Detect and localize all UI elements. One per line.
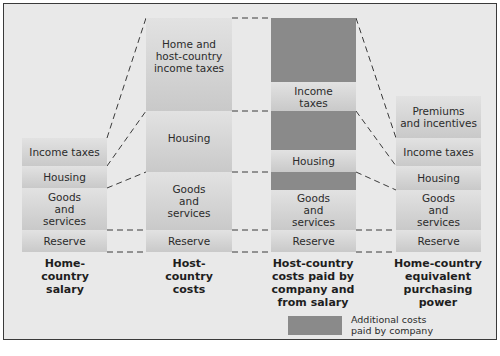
legend-text: Additional costs paid by company [351,314,461,336]
segment-income-taxes: Income taxes [22,138,107,166]
segment-housing: Housing [146,111,232,172]
segment-reserve: Reserve [271,230,356,252]
column-label-line: from salary [258,296,368,309]
column-label-line: purchasing [383,283,493,296]
segment-label: Reserve [292,235,334,247]
segment-reserve: Reserve [396,230,481,252]
segment-label: Goods [297,192,330,204]
segment-label: services [167,207,210,219]
column-label-line: equivalent [383,270,493,283]
segment-reserve: Reserve [22,230,107,252]
segment-company-paid [271,18,356,82]
column-label-line: Home-country [383,257,493,270]
column-label: Host-country costs paid by company and f… [258,257,368,309]
column-label-line: costs paid by [258,270,368,283]
segment-label: Income taxes [403,146,473,158]
segment-label: Premiums [412,105,464,117]
segment-income-taxes: Income taxes [396,138,481,166]
column-label-line: Host-country [258,257,368,270]
column-label-line: Host- [134,257,244,270]
segment-label: Goods [172,183,205,195]
segment-label: and [55,203,75,215]
segment-label: services [292,216,335,228]
segment-label: host-country [156,50,223,62]
segment-income-taxes: Income taxes [271,82,356,111]
column-label: Home-country equivalent purchasing power [383,257,493,309]
segment-label: Reserve [43,235,85,247]
segment-label: Home and [162,38,216,50]
segment-premiums-and-incentives: Premiums and incentives [396,96,481,138]
column-label-line: country [134,270,244,283]
column-label: Host- country costs [134,257,244,296]
segment-goods-and-services: Goods and services [146,172,232,230]
column-label: Home- country salary [10,257,120,296]
segment-label: Reserve [417,235,459,247]
legend-text-line: paid by company [351,325,461,336]
segment-label: services [417,216,460,228]
column-label-line: salary [10,283,120,296]
segment-label: Income [294,85,333,97]
segment-company-paid [271,172,356,190]
segment-label: Housing [417,172,460,184]
segment-label: Goods [422,192,455,204]
segment-label: Housing [292,155,335,167]
segment-goods-and-services: Goods and services [396,190,481,230]
segment-label: Reserve [168,235,210,247]
segment-label: Income taxes [29,146,99,158]
segment-label: Goods [48,191,81,203]
segment-reserve: Reserve [146,230,232,252]
segment-label: services [43,215,86,227]
segment-housing: Housing [271,150,356,172]
segment-housing: Housing [22,166,107,188]
segment-goods-and-services: Goods and services [22,188,107,230]
segment-label: Housing [43,171,86,183]
column-label-line: company and [258,283,368,296]
column-label-line: country [10,270,120,283]
segment-label: taxes [299,97,327,109]
segment-income-taxes: Home and host-country income taxes [146,18,232,111]
segment-label: and [179,195,199,207]
segment-goods-and-services: Goods and services [271,190,356,230]
segment-label: and [304,204,324,216]
column-label-line: power [383,296,493,309]
segment-label: and incentives [400,117,477,129]
segment-label: income taxes [154,62,224,74]
column-label-line: costs [134,283,244,296]
segment-housing: Housing [396,166,481,190]
legend-text-line: Additional costs [351,314,461,325]
segment-company-paid [271,111,356,150]
segment-label: Housing [168,132,211,144]
segment-label: and [429,204,449,216]
column-label-line: Home- [10,257,120,270]
legend-swatch-company-paid [288,316,342,335]
